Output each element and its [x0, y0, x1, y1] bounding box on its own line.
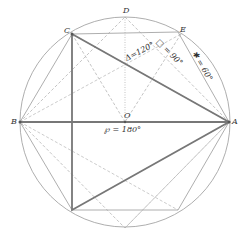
label-point-a: A: [232, 118, 238, 126]
label-point-e: E: [180, 26, 186, 34]
point-o-dot: [124, 121, 126, 123]
dashed-b-to-e: [20, 34, 181, 122]
circle-chord-diagram: A B C D E O Δ=120° □ = 90° ✱ = 60° ℘ = 1…: [0, 0, 251, 237]
label-diameter-angle: ℘ = 180°: [104, 126, 141, 134]
label-point-b: B: [11, 118, 17, 126]
label-point-o: O: [124, 112, 131, 120]
dashed-c-to-o: [72, 34, 125, 122]
dashed-b-bottomright: [20, 122, 178, 210]
label-point-c: C: [64, 27, 70, 35]
point-a-dot: [228, 121, 231, 124]
point-c-dot: [71, 33, 74, 36]
label-point-d: D: [123, 7, 129, 15]
point-b-dot: [19, 121, 22, 124]
